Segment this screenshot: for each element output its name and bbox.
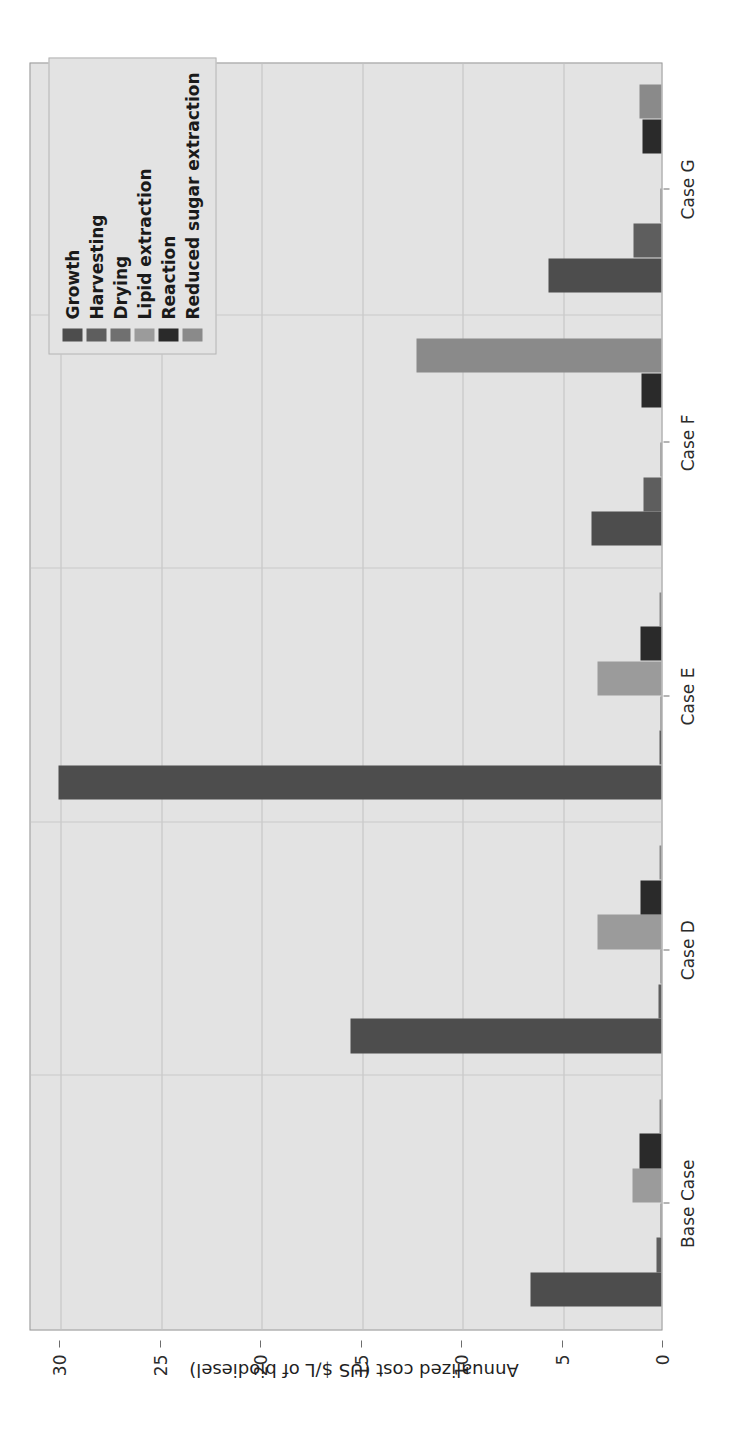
bar — [660, 949, 661, 983]
bar-group — [30, 337, 661, 545]
legend-item: Lipid extraction — [132, 72, 156, 341]
bar-group — [30, 845, 661, 1053]
bar — [660, 442, 661, 476]
bar — [639, 1133, 661, 1167]
legend-item-label: Harvesting — [86, 214, 106, 319]
bar — [659, 592, 661, 626]
bar — [597, 661, 661, 695]
bar — [640, 880, 661, 914]
value-tick-mark — [260, 1340, 261, 1347]
bar — [548, 258, 661, 292]
value-tick-mark — [59, 1340, 60, 1347]
category-tick-mark — [663, 1202, 669, 1203]
gridline-vertical — [30, 1074, 661, 1075]
value-axis-title: Annualized cost (US $/L of biodiesel) — [37, 1359, 670, 1380]
bar — [659, 730, 661, 764]
category-tick-mark — [663, 949, 669, 950]
bar-chart-figure: 051015202530 Annualized cost (US $/L of … — [0, 0, 747, 1443]
legend-swatch-icon — [110, 328, 130, 341]
legend-swatch-icon — [86, 328, 106, 341]
chart-page: 051015202530 Annualized cost (US $/L of … — [0, 0, 747, 1443]
legend-rows: GrowthHarvestingDryingLipid extractionRe… — [60, 72, 204, 341]
value-tick-mark — [159, 1340, 160, 1347]
legend-swatch-icon — [158, 328, 178, 341]
bar — [642, 119, 661, 153]
value-tick-mark — [561, 1340, 562, 1347]
category-tick-label: Case E — [677, 667, 697, 725]
legend-item-label: Growth — [62, 249, 82, 319]
legend-item-label: Lipid extraction — [134, 168, 154, 319]
bar — [632, 1168, 661, 1202]
bar — [656, 1237, 661, 1271]
bar — [640, 626, 661, 660]
legend-swatch-icon — [134, 328, 154, 341]
legend-item: Drying — [108, 72, 132, 341]
bar — [660, 188, 661, 222]
legend-item-label: Drying — [110, 255, 130, 319]
gridline-vertical — [30, 821, 661, 822]
bar — [633, 223, 661, 257]
legend-swatch-icon — [62, 328, 82, 341]
bar — [58, 765, 661, 799]
category-tick-mark — [663, 441, 669, 442]
category-tick-label: Case D — [677, 920, 697, 980]
legend-item: Reaction — [156, 72, 180, 341]
legend-item-label: Reduced sugar extraction — [182, 72, 202, 319]
bar — [641, 373, 661, 407]
value-tick-mark — [360, 1340, 361, 1347]
bar-group — [30, 591, 661, 799]
bar-group — [30, 1098, 661, 1306]
bar — [591, 511, 661, 545]
value-axis: 051015202530 Annualized cost (US $/L of … — [29, 1330, 662, 1443]
legend-item: Harvesting — [84, 72, 108, 341]
category-axis: Base CaseCase DCase ECase FCase G — [663, 62, 723, 1330]
bar — [658, 984, 661, 1018]
legend-item: Reduced sugar extraction — [180, 72, 204, 341]
bar — [639, 84, 661, 118]
category-tick-label: Case G — [677, 159, 697, 219]
category-tick-label: Base Case — [677, 1159, 697, 1247]
bar — [530, 1272, 661, 1306]
legend-item-label: Reaction — [158, 235, 178, 319]
bar — [643, 477, 661, 511]
legend-item: Growth — [60, 72, 84, 341]
category-tick-label: Case F — [677, 414, 697, 471]
chart-legend: GrowthHarvestingDryingLipid extractionRe… — [48, 57, 216, 354]
bar — [416, 338, 661, 372]
value-tick-mark — [461, 1340, 462, 1347]
gridline-vertical — [30, 567, 661, 568]
category-tick-mark — [663, 695, 669, 696]
category-tick-mark — [663, 188, 669, 189]
bar — [350, 1018, 661, 1052]
bar — [660, 1203, 661, 1237]
value-tick-mark — [662, 1340, 663, 1347]
bar — [659, 1099, 661, 1133]
bar — [660, 696, 661, 730]
legend-swatch-icon — [182, 328, 202, 341]
bar — [597, 914, 661, 948]
bar — [659, 845, 661, 879]
figure-rotator: 051015202530 Annualized cost (US $/L of … — [0, 0, 747, 1443]
